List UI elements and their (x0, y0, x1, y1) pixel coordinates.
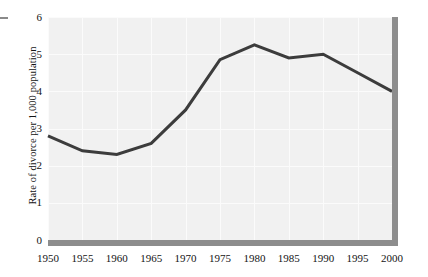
y-tick-label: 2 (24, 160, 42, 171)
y-tick-label: 6 (24, 12, 42, 23)
y-tick-label: 0 (24, 235, 42, 246)
y-tick-label: 1 (24, 197, 42, 208)
y-tick-label: 4 (24, 86, 42, 97)
y-axis-tick-labels: 0123456 (24, 0, 42, 277)
y-tick-label: 3 (24, 123, 42, 134)
edge-tick-mark (0, 17, 8, 19)
plot-area (48, 17, 392, 240)
divorce-rate-line-chart: Rate of divorce per 1,000 population 012… (0, 0, 428, 277)
y-tick-label: 5 (24, 49, 42, 60)
x-tick-label: 2000 (372, 252, 412, 264)
plot-border-right (392, 17, 398, 246)
x-axis-tick-labels: 1950195519601965197019751980198519901995… (0, 252, 428, 268)
data-series-line (48, 17, 392, 240)
plot-border-bottom (48, 240, 398, 246)
